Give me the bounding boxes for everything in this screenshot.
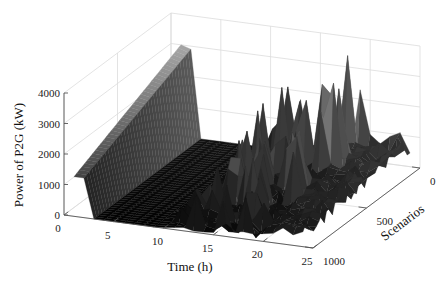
y-tick xyxy=(305,247,313,248)
surface xyxy=(74,45,410,238)
y-tick xyxy=(412,167,420,168)
z-tick-label: 3000 xyxy=(38,118,61,130)
z-tick-label: 4000 xyxy=(38,87,61,99)
x-axis-label: Time (h) xyxy=(167,259,212,274)
z-tick-label: 1000 xyxy=(38,179,61,191)
x-tick-label: 0 xyxy=(55,222,61,234)
grid-line-back-horizontal xyxy=(171,13,420,46)
y-tick-label: 0 xyxy=(430,175,436,187)
x-tick xyxy=(64,212,68,215)
x-tick xyxy=(313,245,317,248)
grid-line-back-horizontal xyxy=(171,44,420,77)
x-tick-label: 10 xyxy=(152,235,164,247)
x-tick-label: 20 xyxy=(252,248,264,260)
x-tick-label: 25 xyxy=(302,255,314,267)
z-tick-label: 2000 xyxy=(38,148,61,160)
x-tick-label: 5 xyxy=(105,229,111,241)
x-tick-label: 15 xyxy=(202,242,214,254)
grid-line-back-horizontal xyxy=(171,74,420,107)
x-tick xyxy=(213,232,217,235)
z-tick-label: 0 xyxy=(55,209,61,221)
x-tick xyxy=(263,238,267,241)
surface-chart: 01000200030004000051015202505001000 Powe… xyxy=(0,0,445,287)
y-tick xyxy=(359,207,367,208)
y-tick-label: 1000 xyxy=(323,255,346,267)
z-axis-label: Power of P2G (kW) xyxy=(11,103,26,207)
